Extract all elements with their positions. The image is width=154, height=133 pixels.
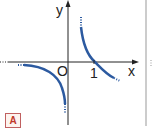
origin-label: O — [57, 63, 68, 79]
divider — [145, 0, 147, 126]
figure-badge: A — [5, 113, 21, 128]
x-axis-label: x — [128, 63, 135, 79]
y-axis-label: y — [56, 2, 63, 18]
tick-label-1: 1 — [90, 65, 98, 81]
